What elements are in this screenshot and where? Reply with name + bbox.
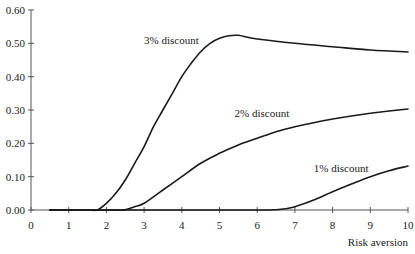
- x-tick-label: 4: [179, 219, 185, 231]
- x-tick-label: 5: [217, 219, 223, 231]
- series-labels: 3% discount2% discount1% discount: [144, 34, 368, 174]
- series-label-1-pct-discount: 1% discount: [314, 162, 369, 174]
- y-tick-label: 0.10: [6, 171, 26, 183]
- y-axis: 0.000.100.200.300.400.500.60: [6, 4, 34, 216]
- x-tick-label: 8: [330, 219, 336, 231]
- y-tick-label: 0.20: [6, 137, 26, 149]
- curve-3-pct-discount: [50, 35, 408, 210]
- x-tick-label: 0: [28, 219, 34, 231]
- series-curves: [50, 35, 408, 210]
- y-tick-label: 0.30: [6, 104, 26, 116]
- x-tick-label: 2: [104, 219, 110, 231]
- series-label-3-pct-discount: 3% discount: [144, 34, 199, 46]
- series-label-2-pct-discount: 2% discount: [235, 107, 290, 119]
- y-tick-label: 0.00: [6, 204, 26, 216]
- y-tick-label: 0.40: [6, 71, 26, 83]
- line-chart: 0.000.100.200.300.400.500.60 01234567891…: [0, 0, 415, 254]
- y-tick-label: 0.50: [6, 37, 26, 49]
- x-axis-title: Risk aversion: [348, 236, 409, 248]
- x-tick-label: 3: [141, 219, 147, 231]
- curve-2-pct-discount: [50, 109, 408, 210]
- x-tick-label: 9: [368, 219, 374, 231]
- x-tick-label: 1: [66, 219, 72, 231]
- x-tick-label: 10: [403, 219, 415, 231]
- x-tick-label: 7: [292, 219, 298, 231]
- y-tick-label: 0.60: [6, 4, 26, 16]
- x-tick-label: 6: [254, 219, 260, 231]
